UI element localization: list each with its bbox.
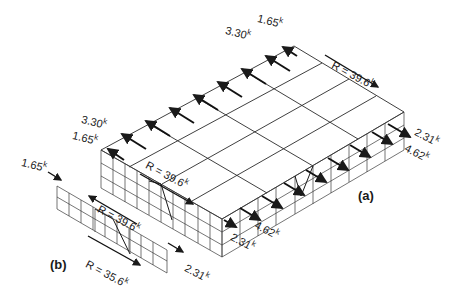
- edge-load-arrows: [108, 47, 297, 160]
- caption-b: (b): [50, 257, 67, 272]
- wall-reaction-arrows: [224, 124, 410, 227]
- structure-drawing: [0, 0, 462, 288]
- caption-a: (a): [358, 188, 374, 203]
- isolated-shear-wall: [57, 186, 167, 273]
